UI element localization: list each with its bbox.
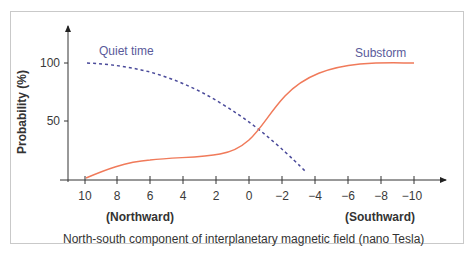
southward-label: (Southward) (345, 210, 415, 224)
substorm-line (86, 63, 414, 178)
x-tick-label: −6 (341, 189, 355, 203)
quiet-time-line (87, 63, 306, 172)
x-tick-label: 0 (246, 189, 253, 203)
substorm-label: Substorm (355, 46, 406, 60)
x-tick-label: −10 (402, 189, 423, 203)
x-tick-label: 2 (213, 189, 220, 203)
x-tick-label: 4 (180, 189, 187, 203)
y-axis-title: Probability (%) (15, 70, 29, 154)
y-tick-label-50: 50 (47, 114, 61, 128)
y-tick-label-100: 100 (40, 56, 60, 70)
x-tick-label: −4 (308, 189, 322, 203)
chart-canvas: 100 50 Probability (%) 10 8 6 4 2 0 −2 −… (0, 0, 474, 274)
northward-label: (Northward) (106, 210, 174, 224)
x-axis-title: North-south component of interplanetary … (63, 232, 424, 246)
x-tick-label: 8 (114, 189, 121, 203)
x-tick-label: 6 (147, 189, 154, 203)
x-tick-label: −8 (374, 189, 388, 203)
x-tick-label: 10 (78, 189, 92, 203)
x-tick-label: −2 (275, 189, 289, 203)
quiet-time-label: Quiet time (99, 44, 154, 58)
x-tick-labels: 10 8 6 4 2 0 −2 −4 −6 −8 −10 (78, 189, 422, 203)
